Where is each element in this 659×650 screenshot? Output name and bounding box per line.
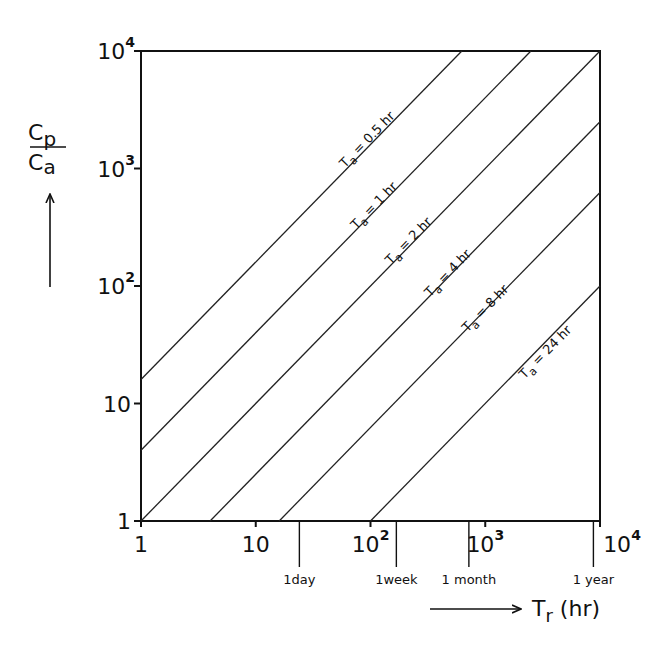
x-tick-label: 103: [466, 527, 504, 557]
x-axis-label: Tr (hr): [430, 596, 600, 626]
series-label: Ta = 24 hr: [515, 322, 577, 385]
time-markers: 1day1week1 month1 year: [283, 521, 614, 587]
svg-text:Ca: Ca: [28, 150, 56, 179]
series-label: Ta = 2 hr: [381, 214, 438, 271]
y-tick-label: 10: [103, 392, 131, 417]
x-tick-label: 102: [352, 527, 390, 557]
time-marker-label: 1week: [375, 572, 418, 587]
svg-text:Tr (hr): Tr (hr): [531, 596, 600, 626]
series-label: Ta = 4 hr: [421, 246, 478, 303]
series-labels: Ta = 0.5 hrTa = 1 hrTa = 2 hrTa = 4 hrTa…: [336, 108, 578, 385]
series-label: Ta = 0.5 hr: [336, 108, 401, 174]
chart-canvas: 110102103104 110102103104 1day1week1 mon…: [0, 0, 659, 650]
series-line: [210, 122, 600, 521]
x-tick-label: 1: [134, 532, 148, 557]
y-tick-label: 1: [117, 509, 131, 534]
y-axis-label: Cp Ca: [28, 120, 66, 287]
series-line: [141, 51, 531, 450]
y-tick-label: 104: [97, 34, 135, 64]
time-marker-label: 1 year: [573, 572, 615, 587]
x-label-unit: (hr): [553, 596, 600, 621]
y-label-denominator-sub: a: [43, 155, 55, 179]
series-label: Ta = 8 hr: [458, 281, 515, 338]
series-label: Ta = 1 hr: [347, 178, 404, 235]
x-label-main: T: [531, 596, 546, 621]
time-marker-label: 1 month: [442, 572, 497, 587]
y-label-numerator: C: [28, 120, 43, 145]
series-line: [141, 51, 462, 380]
time-marker-label: 1day: [283, 572, 315, 587]
series-lines: [141, 51, 600, 521]
x-tick-label: 104: [603, 527, 641, 557]
y-axis-ticks: 110102103104: [97, 34, 141, 534]
x-tick-label: 10: [242, 532, 270, 557]
y-tick-label: 103: [97, 152, 135, 182]
series-line: [279, 192, 600, 521]
y-tick-label: 102: [97, 269, 135, 299]
series-line: [141, 51, 600, 521]
y-label-denominator: C: [28, 150, 43, 175]
x-axis-ticks: 110102103104: [134, 521, 641, 557]
